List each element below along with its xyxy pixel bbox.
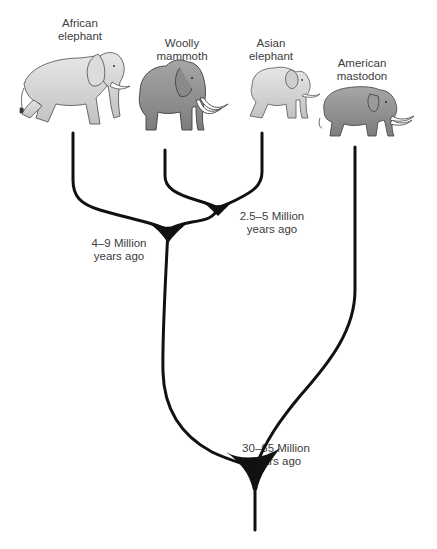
american-mastodon-illustration [319,87,414,136]
elephant-phylogeny-diagram: African elephant Woolly mammoth Asian el… [0,0,437,549]
asian-elephant-illustration [250,67,320,118]
node-30-65-million [226,448,280,490]
branch-woolly-mammoth [165,150,218,208]
branch-african-elephant [73,133,168,230]
woolly-mammoth-illustration [139,60,228,130]
tree-graphic [0,0,437,549]
african-elephant-illustration [20,53,130,124]
tree-nodes [150,202,280,490]
branch-african-ancestor [163,230,255,468]
branch-american-mastodon [255,147,355,468]
tree-branches [73,133,355,530]
branch-asian-elephant [218,133,262,208]
